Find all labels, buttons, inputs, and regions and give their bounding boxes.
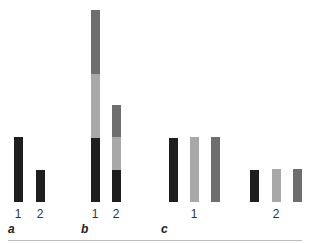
panel-a-bar-2	[36, 170, 45, 202]
panel-a-bar-1	[14, 137, 23, 202]
panel-a-label-2: 2	[37, 208, 44, 220]
panel-b-bar-1-light	[91, 74, 100, 138]
panel-c-letter: c	[161, 223, 168, 235]
panel-c-bar-2-mid	[293, 169, 302, 202]
panel-b-label-2: 2	[113, 208, 120, 220]
panel-c-bar-2-light	[272, 169, 281, 202]
panel-a-letter: a	[8, 223, 15, 235]
panel-a-label-1: 1	[15, 208, 22, 220]
panel-b-bar-1-dark	[91, 138, 100, 202]
panel-c-bar-2-dark	[250, 170, 259, 202]
panel-c-bar-1-dark	[169, 138, 178, 202]
panel-b-bar-2-dark	[112, 170, 121, 202]
panel-c-bar-1-light	[190, 137, 199, 202]
panel-b-bar-1-mid	[91, 10, 100, 74]
panel-c-label-1: 1	[191, 208, 198, 220]
panel-b-bar-2-light	[112, 137, 121, 170]
panel-c-label-2: 2	[273, 208, 280, 220]
panel-b-label-1: 1	[92, 208, 99, 220]
panel-b-letter: b	[81, 223, 88, 235]
panel-c-bar-1-mid	[211, 137, 220, 202]
panel-b-bar-2-mid	[112, 105, 121, 137]
bottom-rule	[8, 240, 302, 241]
